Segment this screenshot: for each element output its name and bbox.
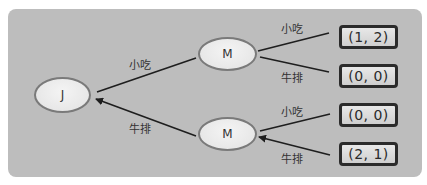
edge-label-j-snack: 小吃 <box>129 56 151 72</box>
payoff-4-value: (2, 1) <box>348 146 389 162</box>
edge-label-mbottom-steak: 牛排 <box>281 150 303 166</box>
edge-label-j-steak: 牛排 <box>129 120 151 136</box>
payoff-box-1: (1, 2) <box>339 25 398 49</box>
payoff-box-4: (2, 1) <box>339 142 398 166</box>
payoff-1-value: (1, 2) <box>348 29 389 45</box>
edge-label-mtop-snack: 小吃 <box>281 20 303 36</box>
node-m-bottom-label: M <box>222 127 232 141</box>
edge-label-mbottom-snack: 小吃 <box>281 103 303 119</box>
node-j-label: J <box>61 88 65 102</box>
node-m-top-label: M <box>222 47 232 61</box>
node-j: J <box>34 77 91 113</box>
edge-label-mtop-steak: 牛排 <box>281 69 303 85</box>
payoff-box-2: (0, 0) <box>339 64 398 88</box>
payoff-3-value: (0, 0) <box>348 107 389 123</box>
node-m-bottom: M <box>198 117 257 151</box>
payoff-2-value: (0, 0) <box>348 68 389 84</box>
payoff-box-3: (0, 0) <box>339 103 398 127</box>
node-m-top: M <box>198 37 257 71</box>
